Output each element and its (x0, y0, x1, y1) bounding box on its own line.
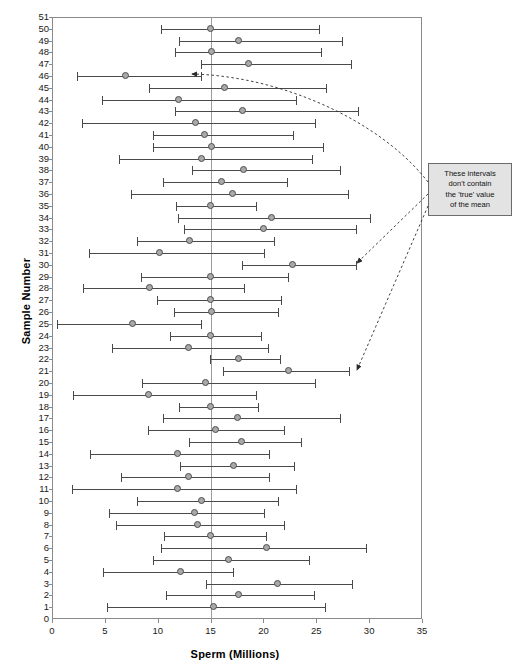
confidence-interval-line (176, 206, 256, 207)
y-tick-label: 33 (9, 225, 49, 235)
y-tick-label: 39 (9, 154, 49, 164)
y-tick-label: 12 (9, 473, 49, 483)
y-tick-mark (49, 17, 52, 18)
interval-lower-cap (90, 450, 91, 459)
interval-lower-cap (142, 379, 143, 388)
confidence-interval-line (153, 147, 322, 148)
y-tick-label: 36 (9, 189, 49, 199)
interval-lower-cap (153, 131, 154, 140)
x-tick-mark (52, 619, 53, 623)
annotation-callout: These intervals don't contain the 'true'… (428, 163, 512, 216)
interval-lower-cap (210, 355, 211, 364)
confidence-interval-line (170, 336, 261, 337)
confidence-interval-line (121, 477, 269, 478)
interval-upper-cap (315, 379, 316, 388)
interval-lower-cap (166, 591, 167, 600)
y-tick-label: 11 (9, 484, 49, 494)
interval-lower-cap (137, 237, 138, 246)
interval-lower-cap (153, 143, 154, 152)
interval-upper-cap (325, 603, 326, 612)
confidence-interval-line (164, 536, 265, 537)
y-tick-mark (49, 548, 52, 549)
y-tick-label: 17 (9, 414, 49, 424)
sample-mean-marker (210, 603, 217, 610)
interval-upper-cap (356, 225, 357, 234)
interval-upper-cap (366, 544, 367, 553)
interval-upper-cap (261, 332, 262, 341)
interval-upper-cap (287, 178, 288, 187)
x-tick-mark (422, 619, 423, 623)
sample-mean-marker (198, 155, 205, 162)
interval-lower-cap (174, 308, 175, 317)
interval-lower-cap (170, 332, 171, 341)
y-tick-label: 31 (9, 248, 49, 258)
interval-lower-cap (192, 166, 193, 175)
annotation-line-4: of the mean (444, 200, 496, 210)
y-tick-mark (49, 288, 52, 289)
confidence-interval-line (175, 52, 321, 53)
annotation-line-1: These intervals (444, 169, 496, 179)
interval-upper-cap (309, 556, 310, 565)
interval-lower-cap (223, 367, 224, 376)
confidence-interval-line (131, 194, 348, 195)
interval-upper-cap (266, 532, 267, 541)
interval-lower-cap (57, 320, 58, 329)
y-tick-mark (49, 371, 52, 372)
y-tick-mark (49, 584, 52, 585)
sample-mean-marker (207, 332, 214, 339)
interval-upper-cap (294, 462, 295, 471)
y-tick-label: 37 (9, 178, 49, 188)
y-tick-label: 5 (9, 555, 49, 565)
y-tick-label: 8 (9, 520, 49, 530)
y-tick-mark (49, 525, 52, 526)
interval-upper-cap (370, 214, 371, 223)
sample-mean-marker (198, 497, 205, 504)
x-tick-mark (263, 619, 264, 623)
y-tick-mark (49, 277, 52, 278)
interval-lower-cap (180, 462, 181, 471)
x-tick-mark (316, 619, 317, 623)
interval-upper-cap (326, 84, 327, 93)
interval-lower-cap (137, 497, 138, 506)
true-mean-reference-line (211, 17, 212, 619)
x-tick-label: 5 (102, 626, 107, 636)
sample-mean-marker (174, 485, 181, 492)
y-tick-mark (49, 572, 52, 573)
y-tick-mark (49, 241, 52, 242)
interval-upper-cap (278, 497, 279, 506)
y-tick-mark (49, 147, 52, 148)
x-tick-mark (105, 619, 106, 623)
interval-upper-cap (301, 438, 302, 447)
confidence-interval-line (77, 76, 201, 77)
y-tick-mark (49, 206, 52, 207)
confidence-interval-line (137, 501, 279, 502)
y-tick-label: 15 (9, 437, 49, 447)
y-tick-label: 42 (9, 118, 49, 128)
y-tick-label: 1 (9, 602, 49, 612)
interval-lower-cap (103, 568, 104, 577)
sample-mean-marker (274, 580, 281, 587)
y-tick-label: 13 (9, 461, 49, 471)
interval-upper-cap (321, 48, 322, 57)
interval-upper-cap (314, 591, 315, 600)
x-tick-mark (369, 619, 370, 623)
y-tick-label: 35 (9, 201, 49, 211)
interval-upper-cap (342, 37, 343, 46)
interval-lower-cap (83, 284, 84, 293)
y-tick-label: 40 (9, 142, 49, 152)
y-tick-mark (49, 253, 52, 254)
confidence-interval-line (119, 159, 312, 160)
y-tick-mark (49, 182, 52, 183)
x-axis-label: Sperm (Millions) (0, 648, 470, 660)
confidence-interval-line (179, 407, 258, 408)
interval-upper-cap (293, 131, 294, 140)
x-tick-label: 20 (258, 626, 269, 636)
sample-mean-marker (145, 391, 152, 398)
y-tick-label: 6 (9, 543, 49, 553)
y-tick-mark (49, 123, 52, 124)
y-tick-label: 34 (9, 213, 49, 223)
confidence-interval-line (179, 41, 342, 42)
y-tick-label: 46 (9, 71, 49, 81)
interval-lower-cap (109, 509, 110, 518)
interval-upper-cap (269, 450, 270, 459)
